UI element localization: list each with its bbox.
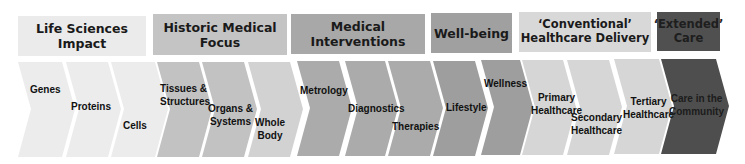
- label-line-1: Care in the: [669, 93, 724, 106]
- label-organs-systems: Organs & Systems: [208, 103, 253, 128]
- label-line-2: Body: [255, 130, 285, 143]
- label-line-1: Whole: [255, 117, 285, 130]
- label-line-2: Community: [669, 106, 724, 119]
- label-line: Proteins: [71, 101, 111, 112]
- label-line-2: Systems: [208, 116, 253, 129]
- label-line-2: Healthcare: [571, 125, 622, 138]
- label-line-1: Primary: [531, 92, 582, 105]
- chevron-metrology: [297, 61, 352, 156]
- label-metrology: Metrology: [300, 85, 348, 98]
- label-line: Genes: [30, 84, 61, 95]
- label-line-1: Organs &: [208, 103, 253, 116]
- label-secondary-healthcare: Secondary Healthcare: [571, 112, 622, 137]
- label-tertiary-healthcare: Tertiary Healthcare: [623, 96, 674, 121]
- chevron-genes: [18, 62, 75, 157]
- label-genes: Genes: [30, 84, 61, 97]
- label-wellness: Wellness: [484, 78, 527, 91]
- label-line: Wellness: [484, 78, 527, 89]
- label-diagnostics: Diagnostics: [348, 103, 405, 116]
- label-cells: Cells: [123, 120, 147, 133]
- label-line-1: Tissues &: [160, 83, 210, 96]
- label-line-2: Healthcare: [623, 109, 674, 122]
- label-tissues-structures: Tissues & Structures: [160, 83, 210, 108]
- label-line: Metrology: [300, 85, 348, 96]
- label-line: Cells: [123, 120, 147, 131]
- label-line-1: Tertiary: [623, 96, 674, 109]
- label-line: Lifestyle: [446, 102, 487, 113]
- label-care-in-community: Care in the Community: [669, 93, 724, 118]
- label-line: Therapies: [392, 121, 439, 132]
- chevron-process-flow: [0, 0, 745, 164]
- chevron-wellness: [481, 60, 533, 155]
- label-proteins: Proteins: [71, 101, 111, 114]
- label-therapies: Therapies: [392, 121, 439, 134]
- label-lifestyle: Lifestyle: [446, 102, 487, 115]
- label-line: Diagnostics: [348, 103, 405, 114]
- label-line-2: Structures: [160, 96, 210, 109]
- label-line-1: Secondary: [571, 112, 622, 125]
- label-whole-body: Whole Body: [255, 117, 285, 142]
